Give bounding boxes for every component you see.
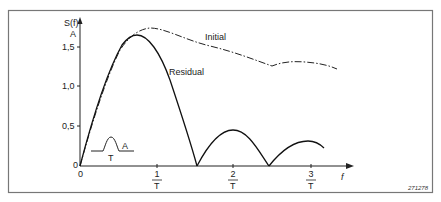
- initial-curve: [80, 28, 337, 166]
- inset-pulse-width: T: [108, 153, 114, 163]
- residual-label: Residual: [169, 67, 204, 77]
- shock-spectrum-chart: S(f) A 1,5 1,0 0,5 0 0 1 T 2 T 3 T f Ini…: [0, 0, 441, 202]
- residual-curve-main-lobe: [80, 35, 197, 166]
- y-tick-1-0: 1,0: [62, 81, 75, 91]
- x-tick-2-den: T: [230, 181, 236, 191]
- inset-pulse-amplitude: A: [122, 141, 128, 151]
- y-tick-1-5: 1,5: [62, 42, 75, 52]
- y-axis-unit: A: [70, 29, 76, 39]
- initial-label: Initial: [205, 32, 226, 42]
- x-axis-label: f: [341, 172, 345, 182]
- x-axis-arrow-icon: [346, 163, 354, 169]
- x-tick-1-num: 1: [155, 169, 160, 179]
- residual-curve-lobe-2: [197, 130, 269, 166]
- residual-curve-lobe-3: [269, 141, 324, 166]
- figure-id: 271278: [407, 185, 429, 191]
- x-tick-0: 0: [78, 169, 83, 179]
- x-tick-2-num: 2: [231, 169, 236, 179]
- x-tick-3-num: 3: [309, 169, 314, 179]
- y-tick-0-5: 0,5: [62, 121, 75, 131]
- x-tick-1-den: T: [154, 181, 160, 191]
- x-tick-3-den: T: [308, 181, 314, 191]
- y-axis-label: S(f): [64, 18, 79, 28]
